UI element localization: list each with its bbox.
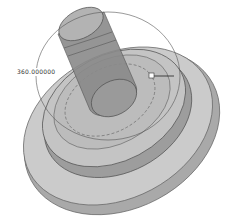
angle-dimension-label[interactable]: 360.000000 xyxy=(16,68,56,76)
drag-handle[interactable] xyxy=(149,73,154,78)
cad-viewport[interactable]: 360.000000 xyxy=(0,0,235,217)
model-render xyxy=(0,0,235,217)
